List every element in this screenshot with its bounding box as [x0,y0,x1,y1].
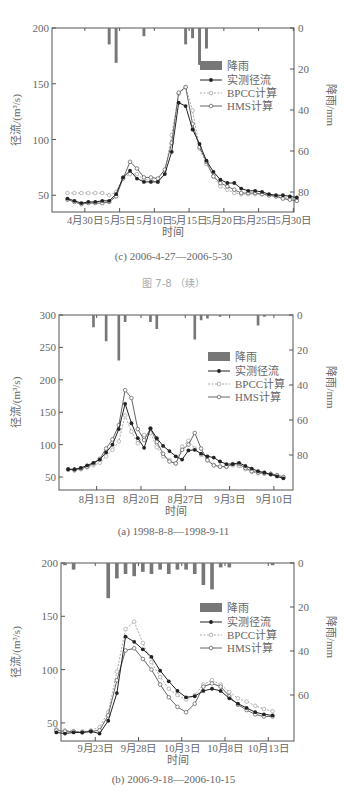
calc-marker [176,705,180,709]
observed-marker [253,710,257,714]
y-tick-label: 100 [42,664,59,676]
observed-marker [262,712,266,716]
calc-marker [158,675,162,679]
chart-panel-b: 5010015020002040609月23日9月28日10月3日10月8日10… [0,0,347,796]
x-tick-label: 9月28日 [121,743,157,754]
series-line-2 [56,648,272,732]
rain-bar [150,563,154,574]
y2-tick-label: 20 [298,601,310,613]
calc-marker [132,646,136,650]
y-tick-label: 150 [42,610,59,622]
y-tick-label: 200 [42,557,59,569]
rain-bar [176,563,180,570]
calc-marker [176,693,180,697]
legend-marker [209,620,213,624]
y2-tick-label: 40 [298,645,310,657]
calc-marker [124,649,128,653]
observed-marker [271,714,275,718]
legend-label: BPCC计算 [227,628,277,641]
rain-bar [167,563,171,574]
x-tick-label: 10月3日 [164,743,200,754]
calc-marker [271,709,275,713]
chart-caption-b: (b) 2006-9-18—2006-10-15 [0,773,347,785]
y2-tick-label: 0 [298,557,304,569]
observed-marker [150,655,154,659]
x-tick-label: 9月23日 [77,743,113,754]
legend-label: 实测径流 [227,615,271,628]
observed-marker [236,702,240,706]
calc-marker [115,670,119,674]
rain-bar [132,563,136,576]
rain-bar [115,563,119,578]
x-tick-label: 10月8日 [207,743,243,754]
calc-marker [219,685,223,689]
rain-bar [141,563,145,572]
calc-marker [228,690,232,694]
calc-marker [158,683,162,687]
observed-marker [124,635,128,639]
observed-marker [210,687,214,691]
rain-bar [271,563,275,565]
observed-marker [176,689,180,693]
observed-marker [227,696,231,700]
rain-bar [219,563,223,567]
chart-b: 5010015020002040609月23日9月28日10月3日10月8日10… [0,0,347,796]
calc-marker [193,702,197,706]
calc-marker [150,660,154,664]
calc-marker [236,697,240,701]
rain-bar [202,563,206,585]
calc-marker [124,627,128,631]
observed-marker [158,669,162,673]
y2-tick-label: 60 [298,689,310,701]
calc-marker [245,700,249,704]
calc-marker [184,710,188,714]
observed-marker [167,679,171,683]
calc-marker [202,685,206,689]
observed-marker [89,730,93,734]
y-axis-title: 径流/(m³/s) [9,626,23,678]
observed-marker [80,731,84,735]
x-tick-label: 10月13日 [248,743,289,754]
observed-marker [184,695,188,699]
observed-marker [115,691,119,695]
legend-marker [209,646,213,650]
rain-bar [72,563,76,570]
legend-swatch-rain [200,603,222,612]
observed-marker [141,647,145,651]
y2-axis-title: 降雨/mm [325,616,338,659]
legend-marker [209,633,213,637]
calc-marker [167,695,171,699]
calc-marker [141,657,145,661]
calc-marker [253,704,257,708]
x-axis-title: 时间 [167,754,189,766]
observed-marker [245,706,249,710]
calc-marker [132,620,136,624]
calc-marker [141,641,145,645]
calc-marker [262,707,266,711]
rain-bar [210,563,214,589]
rain-bar [228,563,232,567]
rain-bar [184,563,188,570]
legend-label: HMS计算 [227,641,273,654]
observed-marker [132,640,136,644]
y-tick-label: 50 [47,717,59,729]
observed-marker [201,689,205,693]
legend-label-rain: 降雨 [227,601,249,614]
rain-bar [158,563,162,570]
observed-marker [63,732,67,736]
plot-group-b: 5010015020002040609月23日9月28日10月3日10月8日10… [9,557,338,766]
calc-marker [150,668,154,672]
legend: 降雨实测径流BPCC计算HMS计算 [200,601,277,654]
rain-bar [193,563,197,574]
rain-bar [124,563,128,574]
calc-marker [167,687,171,691]
rain-bar [63,563,67,565]
observed-marker [219,689,223,693]
observed-marker [193,694,197,698]
rain-bar [106,563,110,598]
observed-marker [106,719,110,723]
calc-marker [210,682,214,686]
observed-marker [54,731,58,735]
observed-marker [72,731,76,735]
observed-marker [98,732,102,736]
